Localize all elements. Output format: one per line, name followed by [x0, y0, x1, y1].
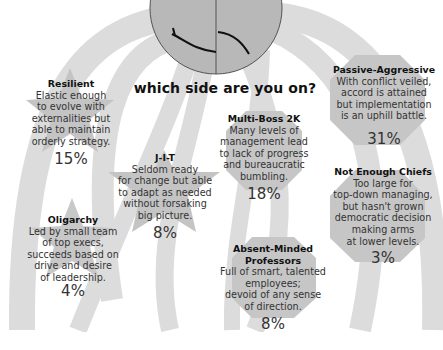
type-desc-line: big picture. [108, 210, 222, 222]
type-desc-line: but implementation [328, 99, 440, 111]
type-desc-line: top-down managing, [326, 189, 440, 201]
type-card-jit: J-I-T Seldom ready for change but able t… [108, 152, 222, 242]
type-desc-line: orderly strategy. [16, 136, 126, 148]
type-name: Resilient [16, 78, 126, 90]
type-desc-line: succeeds based on [18, 249, 128, 261]
type-desc-line: of direction. [216, 301, 330, 313]
type-desc-line: for change but able [108, 175, 222, 187]
type-desc-line: management lead [212, 136, 316, 148]
infographic: which side are you on? Resilient Elastic… [0, 0, 443, 350]
type-desc-line: making arms [326, 224, 440, 236]
type-percent: 31% [328, 130, 440, 148]
type-name: Passive-Aggressive [328, 64, 440, 76]
type-desc-line: democratic decision [326, 212, 440, 224]
type-desc-line: and bureaucratic [212, 159, 316, 171]
type-desc-line: able to maintain [16, 124, 126, 136]
type-name: Multi-Boss 2K [212, 113, 316, 125]
type-desc-line: bumbling. [212, 171, 316, 183]
type-card-absent-minded: Absent-Minded Professors Full of smart, … [216, 243, 330, 333]
type-desc-line: Many levels of [212, 125, 316, 137]
page-title: which side are you on? [130, 80, 320, 96]
type-desc-line: Elastic enough [16, 90, 126, 102]
type-desc-line: devoid of any sense [216, 289, 330, 301]
type-desc-line: without forsaking [108, 198, 222, 210]
type-desc-line: to lack of progress [212, 148, 316, 160]
type-desc-line: to evolve with [16, 101, 126, 113]
type-desc-line: is an uphill battle. [328, 110, 440, 122]
type-card-not-enough-chiefs: Not Enough Chiefs Too large for top-down… [326, 166, 440, 267]
type-percent: 18% [212, 185, 316, 203]
type-desc-line: externalities but [16, 113, 126, 125]
type-name: Not Enough Chiefs [326, 166, 440, 178]
type-desc-line: Too large for [326, 178, 440, 190]
type-desc-line: With conflict veiled, [328, 76, 440, 88]
type-card-multiboss: Multi-Boss 2K Many levels of management … [212, 113, 316, 203]
type-percent: 8% [216, 315, 330, 333]
type-desc-line: drive and desire [18, 260, 128, 272]
type-percent: 4% [18, 282, 128, 300]
type-desc-line: to adapt as needed [108, 187, 222, 199]
type-card-passive-aggressive: Passive-Aggressive With conflict veiled,… [328, 64, 440, 148]
type-name: J-I-T [108, 152, 222, 164]
type-name-line2: Professors [216, 255, 330, 267]
type-name: Absent-Minded [216, 243, 330, 255]
type-desc-line: Seldom ready [108, 164, 222, 176]
type-desc-line: Full of smart, talented [216, 266, 330, 278]
type-desc-line: accord is attained [328, 87, 440, 99]
type-percent: 8% [108, 224, 222, 242]
type-desc-line: at lower levels. [326, 236, 440, 248]
type-percent: 3% [326, 249, 440, 267]
type-desc-line: employees; [216, 278, 330, 290]
type-desc-line: but hasn't grown [326, 201, 440, 213]
